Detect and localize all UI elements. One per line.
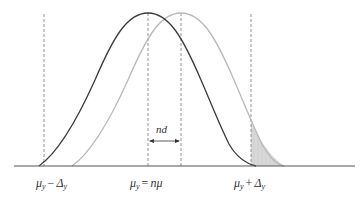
delta-subscript: y (63, 182, 67, 191)
shift-arrow (149, 139, 180, 143)
upper-limit-label: μy+Δy (234, 177, 265, 191)
shaded-tail-region (251, 122, 284, 166)
mean-label: μy=nμ (130, 177, 162, 191)
shift-label: nd (156, 124, 167, 135)
plus-operator: + (244, 176, 255, 190)
original-distribution-curve (39, 13, 256, 166)
equals-operator: = (140, 176, 151, 190)
n-mu-term: nμ (150, 176, 162, 190)
distribution-diagram (0, 0, 360, 198)
lower-limit-label: μy−Δy (36, 177, 67, 191)
delta-subscript: y (261, 182, 265, 191)
minus-operator: − (46, 176, 57, 190)
